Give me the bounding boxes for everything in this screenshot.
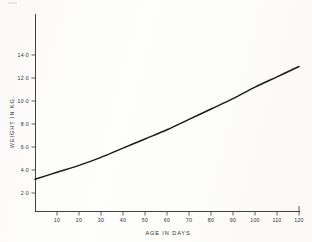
x-tick-label: 120 [294,217,303,223]
x-tick-label: 80 [208,217,214,223]
x-tick-label: 40 [120,217,126,223]
chart-plot-area: 2·0 4·0 6·0 8·0 10·0 12·0 14·0 10 20 [0,0,312,242]
x-tick-group [57,206,299,216]
y-tick-label: 8·0 [21,121,29,127]
y-tick-label: 10·0 [18,98,29,104]
x-tick-labels: 10 20 30 40 50 60 70 80 90 100 110 120 [54,217,304,223]
x-tick-label: 30 [98,217,104,223]
y-tick-label: 6·0 [21,144,29,150]
x-tick-label: 10 [54,217,60,223]
y-tick-label: 4·0 [21,167,29,173]
y-tick-label: 14·0 [18,52,29,58]
x-tick-label: 20 [76,217,82,223]
x-tick-label: 60 [164,217,170,223]
weight-for-age-curve [35,67,299,180]
x-tick-label: 50 [142,217,148,223]
x-tick-label: 90 [230,217,236,223]
y-axis-title: WEIGHT IN KG. [9,96,15,148]
y-tick-group [32,55,36,193]
x-tick-label: 100 [250,217,259,223]
y-tick-labels: 2·0 4·0 6·0 8·0 10·0 12·0 14·0 [18,52,29,196]
growth-chart-figure: 2·0 4·0 6·0 8·0 10·0 12·0 14·0 10 20 [0,0,312,242]
x-tick-label: 70 [186,217,192,223]
y-tick-label: 2·0 [21,190,29,196]
x-axis-title: AGE IN DAYS [145,230,190,236]
x-tick-label: 110 [272,217,281,223]
y-tick-label: 12·0 [18,75,29,81]
